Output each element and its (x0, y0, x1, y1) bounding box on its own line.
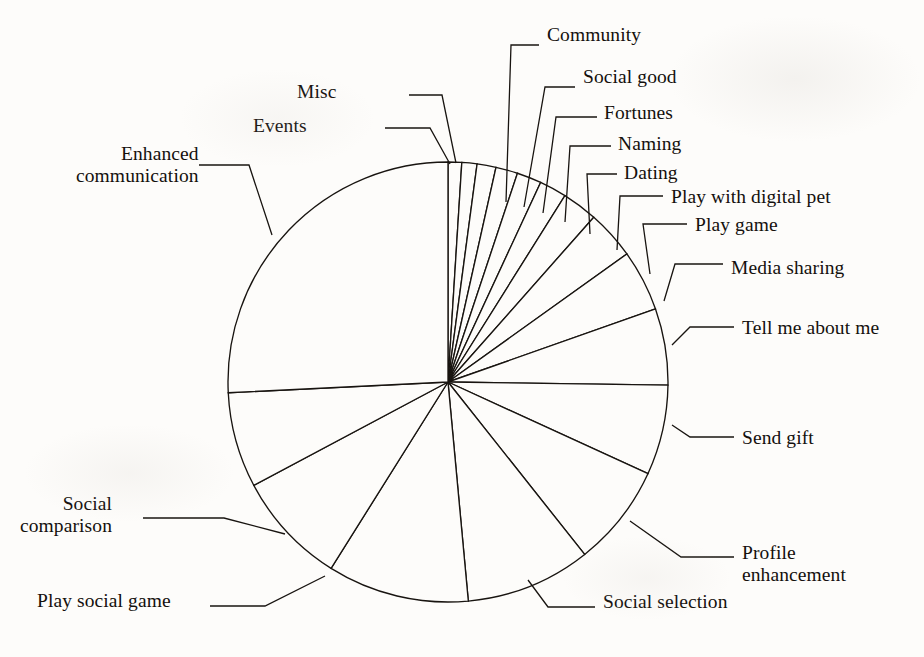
label-line: Send gift (742, 427, 814, 449)
label-play-with-digital-pet[interactable]: Play with digital pet (671, 186, 831, 208)
label-line: Fortunes (604, 102, 673, 124)
label-line: enhancement (742, 564, 846, 586)
leader-line (385, 128, 450, 164)
label-line: Play with digital pet (671, 186, 831, 208)
label-misc[interactable]: Misc (297, 81, 336, 103)
label-line: Social (20, 493, 112, 515)
leader-line (528, 580, 595, 607)
label-line: Play game (695, 214, 778, 236)
label-line: Profile (742, 542, 846, 564)
label-line: Events (253, 115, 307, 137)
label-line: Play social game (37, 590, 171, 612)
leader-line (617, 196, 663, 250)
leader-line (199, 165, 272, 235)
label-line: Naming (618, 133, 681, 155)
label-community[interactable]: Community (547, 24, 641, 46)
label-events[interactable]: Events (253, 115, 307, 137)
label-fortunes[interactable]: Fortunes (604, 102, 673, 124)
leader-line (630, 521, 734, 557)
label-line: Media sharing (731, 257, 844, 279)
label-dating[interactable]: Dating (624, 162, 678, 184)
pie-chart-figure: CommunitySocial goodFortunesNamingDating… (0, 0, 924, 657)
label-line: Misc (297, 81, 336, 103)
label-social-comparison[interactable]: Socialcomparison (20, 493, 112, 538)
label-line: Social selection (603, 591, 728, 613)
leader-line (143, 518, 285, 534)
label-social-good[interactable]: Social good (583, 66, 677, 88)
pie-slice[interactable] (228, 162, 448, 393)
label-line: Dating (624, 162, 678, 184)
label-line: communication (76, 165, 199, 187)
label-send-gift[interactable]: Send gift (742, 427, 814, 449)
leader-line (643, 224, 687, 274)
label-line: Tell me about me (742, 317, 879, 339)
label-tell-me-about-me[interactable]: Tell me about me (742, 317, 879, 339)
label-line: Community (547, 24, 641, 46)
leader-line (210, 576, 325, 606)
pie-wedges-group (228, 162, 668, 602)
label-media-sharing[interactable]: Media sharing (731, 257, 844, 279)
label-naming[interactable]: Naming (618, 133, 681, 155)
label-profile-enhancement[interactable]: Profileenhancement (742, 542, 846, 587)
leader-line (409, 95, 456, 163)
leader-line (672, 327, 734, 345)
label-social-selection[interactable]: Social selection (603, 591, 728, 613)
label-play-game[interactable]: Play game (695, 214, 778, 236)
label-line: Enhanced (76, 143, 199, 165)
label-play-social-game[interactable]: Play social game (37, 590, 171, 612)
leader-line (672, 425, 734, 437)
leader-line (664, 264, 723, 301)
label-line: Social good (583, 66, 677, 88)
label-line: comparison (20, 515, 112, 537)
label-enhanced-communication[interactable]: Enhancedcommunication (76, 143, 199, 188)
